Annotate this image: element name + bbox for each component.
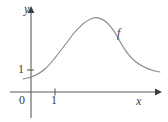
x-axis-label: x: [136, 95, 141, 107]
function-graph-figure: y x f 0 1 1: [0, 0, 168, 122]
x-axis-arrowhead-icon: [155, 88, 162, 95]
function-curve-f: [23, 18, 160, 79]
curve-label-f: f: [117, 27, 120, 39]
x-tick-label-1: 1: [51, 94, 57, 106]
origin-label: 0: [19, 94, 25, 106]
y-axis-label: y: [24, 3, 29, 15]
graph-canvas: [0, 0, 168, 122]
y-tick-label-1: 1: [18, 63, 24, 75]
